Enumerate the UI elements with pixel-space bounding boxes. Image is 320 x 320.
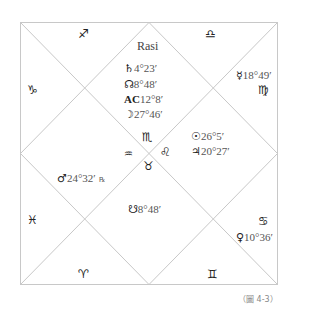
figure-caption: （圖 4-3） [238, 293, 278, 306]
mercury-degree: 18°49′ [243, 69, 272, 81]
north-node-icon: ☊ [124, 78, 134, 91]
gemini-sign-icon: ♊ [207, 268, 218, 281]
leo-sign-icon: ♌ [160, 146, 171, 159]
rahu-placement: ☊8°48′ [124, 78, 157, 91]
south-node-icon: ☋ [128, 203, 138, 216]
aries-sign-icon: ♈ [78, 268, 89, 281]
moon-degree: 27°46′ [134, 108, 163, 120]
sun-placement: ☉26°5′ [191, 130, 224, 143]
cancer-sign-icon: ♋ [258, 215, 269, 228]
retrograde-icon: ℞ [99, 176, 105, 184]
venus-placement: ♀10°36′ [236, 231, 273, 244]
ascendant-placement: AC12°8′ [124, 93, 163, 106]
jupiter-degree: 20°27′ [201, 145, 230, 157]
mars-icon: ♂ [57, 172, 67, 185]
moon-placement: ☽27°46′ [124, 108, 163, 121]
sun-degree: 26°5′ [201, 130, 224, 142]
saturn-placement: ♄4°23′ [124, 62, 157, 75]
saturn-degree: 4°23′ [134, 62, 157, 74]
sun-icon: ☉ [191, 130, 201, 143]
rahu-degree: 8°48′ [134, 78, 157, 90]
mercury-placement: ☿18°49′ [236, 69, 272, 82]
taurus-sign-icon: ♉ [143, 160, 154, 173]
mercury-icon: ☿ [236, 69, 243, 82]
venus-icon: ♀ [236, 231, 244, 244]
virgo-sign-icon: ♍ [258, 84, 269, 97]
ascendant-degree: 12°8′ [140, 93, 163, 105]
pisces-sign-icon: ♓ [27, 214, 38, 227]
libra-sign-icon: ♎ [205, 28, 216, 41]
jupiter-placement: ♃20°27′ [191, 145, 230, 158]
saturn-icon: ♄ [124, 62, 134, 75]
venus-degree: 10°36′ [244, 231, 273, 243]
jupiter-icon: ♃ [191, 145, 201, 158]
ascendant-label: AC [124, 93, 140, 105]
chart-title: Rasi [137, 40, 158, 53]
capricorn-sign-icon: ♑ [27, 84, 38, 97]
sagittarius-sign-icon: ♐ [78, 28, 89, 41]
scorpio-sign-icon: ♏ [142, 131, 153, 144]
moon-icon: ☽ [124, 108, 134, 121]
mars-placement: ♂24°32′℞ [57, 172, 105, 187]
ketu-degree: 8°48′ [138, 203, 161, 215]
ketu-placement: ☋8°48′ [128, 203, 161, 216]
aquarius-sign-icon: ♒ [124, 147, 133, 160]
mars-degree: 24°32′ [67, 172, 96, 184]
